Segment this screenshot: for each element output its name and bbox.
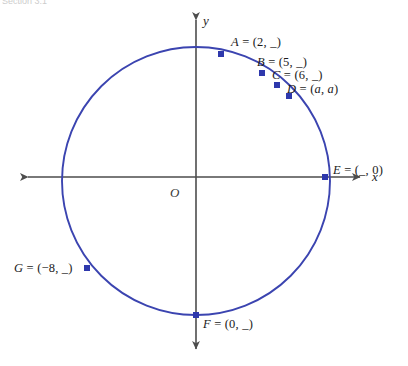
- diagram-canvas: [0, 0, 408, 366]
- data-point-c: [274, 82, 280, 88]
- data-point-a: [218, 51, 224, 57]
- point-label-c: C = (6, _): [272, 69, 323, 82]
- point-label-e: E = (_, 0): [333, 164, 383, 177]
- point-label-b: B = (5, _): [257, 56, 307, 69]
- data-point-b: [259, 70, 265, 76]
- point-label-d: D = (a, a): [287, 83, 338, 96]
- point-label-a: A = (2, _): [231, 36, 281, 49]
- data-point-g: [84, 265, 90, 271]
- point-label-f: F = (0, _): [203, 318, 253, 331]
- origin-label: O: [170, 186, 179, 199]
- data-point-e: [322, 174, 328, 180]
- point-label-g: G = (−8, _): [14, 262, 73, 275]
- data-point-f: [193, 312, 199, 318]
- circle-coordinate-figure: Section 3.1 O x y A = (2, _)B = (5, _)C …: [0, 0, 408, 366]
- y-axis-label: y: [203, 14, 209, 27]
